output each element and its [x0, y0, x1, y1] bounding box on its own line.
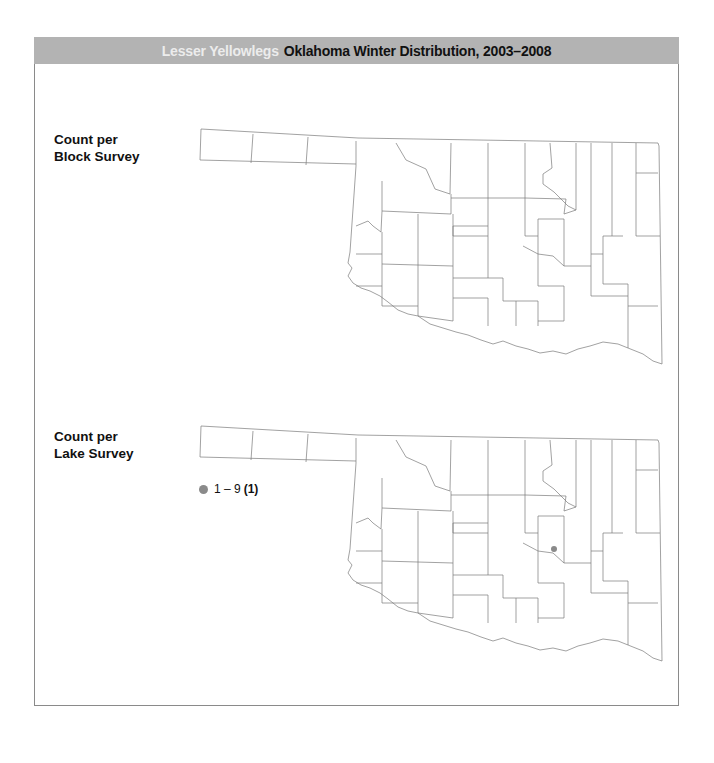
oklahoma-map-lake-survey [198, 423, 662, 655]
oklahoma-county-map [198, 126, 662, 358]
figure-header: Lesser Yellowlegs Oklahoma Winter Distri… [34, 37, 679, 64]
figure-title: Oklahoma Winter Distribution, 2003–2008 [284, 43, 552, 59]
lake-survey-label: Count per Lake Survey [54, 428, 134, 462]
survey-point-dot [551, 546, 557, 552]
block-survey-label: Count per Block Survey [54, 131, 140, 165]
oklahoma-county-map [198, 423, 662, 655]
oklahoma-map-block-survey [198, 126, 662, 358]
species-name: Lesser Yellowlegs [162, 43, 279, 59]
